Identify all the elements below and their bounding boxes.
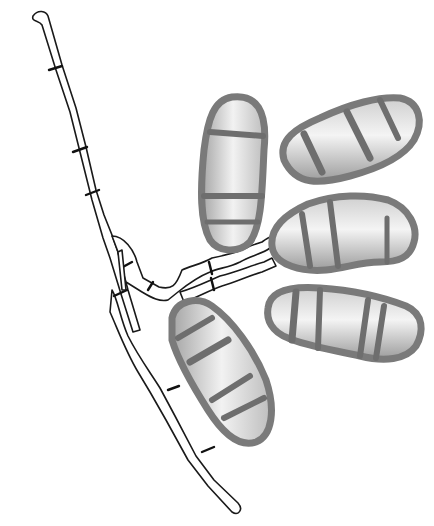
conidium-lower-left [172, 301, 271, 444]
conidium-lower-right [268, 288, 421, 360]
conidium-upper-left [202, 97, 265, 250]
conidium-middle-right [272, 196, 415, 270]
conidium-upper-right [283, 98, 419, 182]
septum [168, 386, 179, 390]
conidiophore-branches [112, 236, 278, 302]
septum [202, 447, 214, 452]
hypha-conidia-illustration [0, 0, 434, 526]
